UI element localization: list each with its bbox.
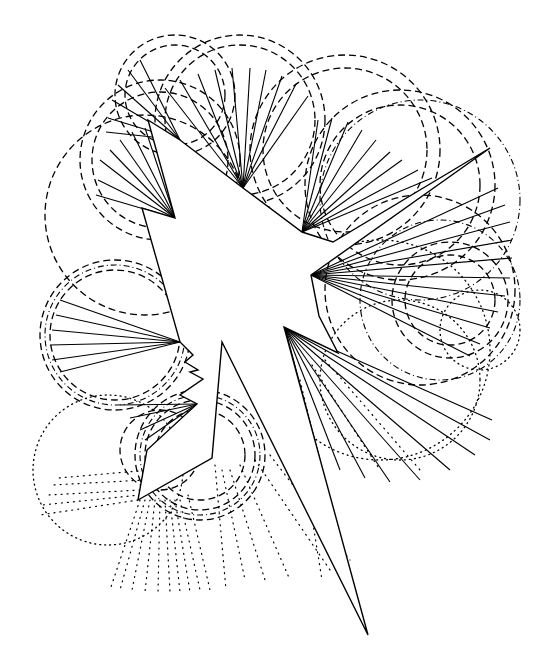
dotted-ray — [240, 465, 290, 580]
arc-dot — [320, 300, 480, 460]
dotted-ray — [132, 500, 150, 590]
dotted-ray — [215, 465, 226, 590]
dotted-ray — [58, 470, 150, 478]
line-fan — [302, 118, 432, 232]
dotted-ray — [145, 500, 155, 592]
dotted-ray — [158, 500, 160, 592]
line-art-drawing — [0, 0, 560, 670]
star-burst-shape — [138, 120, 490, 635]
arc-dashdot — [320, 100, 520, 300]
dotted-ray — [230, 470, 265, 580]
dotted-ray — [180, 500, 200, 590]
dotted-ray — [48, 490, 140, 495]
line-fan — [311, 188, 512, 356]
dotted-ray — [325, 360, 420, 470]
dotted-ray — [120, 500, 145, 590]
dotted-ray — [42, 495, 140, 505]
dotted-ray — [170, 500, 180, 592]
dotted-ray — [222, 470, 245, 580]
dotted-ray — [52, 480, 145, 485]
dotted-ray — [40, 500, 138, 515]
line-fan — [106, 60, 180, 140]
